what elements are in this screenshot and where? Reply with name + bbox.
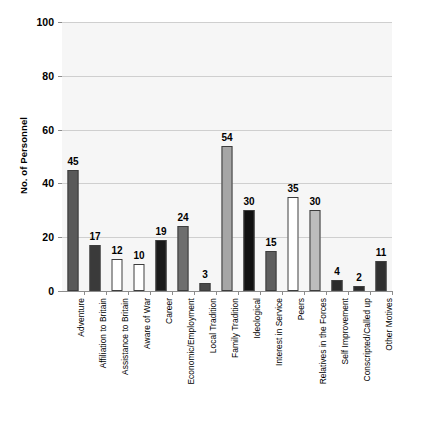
bar-chart: No. of Personnel 020406080100 4517121019…	[0, 0, 441, 426]
x-axis-tick	[282, 291, 283, 295]
x-axis-tick	[392, 291, 393, 295]
x-axis-tick	[150, 291, 151, 295]
x-axis-label: Career	[165, 298, 173, 324]
y-axis-label: 0	[0, 286, 54, 297]
bar-slot: 3	[194, 22, 216, 291]
x-axis-tick	[172, 291, 173, 295]
bar-value-label: 2	[356, 273, 362, 283]
bar-series: 451712101924354301535304211	[62, 22, 392, 291]
x-axis-label: Interest in Service	[275, 298, 283, 366]
bar[interactable]	[376, 261, 387, 291]
bar-slot: 2	[348, 22, 370, 291]
bar[interactable]	[178, 226, 189, 291]
x-axis-label: Affiliation to Britain	[99, 298, 107, 368]
bar-value-label: 10	[133, 251, 144, 261]
x-axis-tick	[348, 291, 349, 295]
bar-value-label: 24	[177, 213, 188, 223]
bar[interactable]	[200, 283, 211, 291]
bar[interactable]	[244, 210, 255, 291]
x-axis-label: Adventure	[77, 298, 85, 337]
x-axis-tick	[370, 291, 371, 295]
x-axis-tick	[260, 291, 261, 295]
y-axis-label: 100	[0, 17, 54, 28]
bar-value-label: 12	[111, 246, 122, 256]
x-axis-label: Self Improvement	[341, 298, 349, 364]
bar-slot: 11	[370, 22, 392, 291]
bar[interactable]	[156, 240, 167, 291]
y-axis-title: No. of Personnel	[18, 86, 29, 226]
x-axis-label: Ideological	[253, 298, 261, 339]
x-axis-tick	[216, 291, 217, 295]
bar-value-label: 17	[89, 232, 100, 242]
bar-slot: 15	[260, 22, 282, 291]
x-axis-line	[62, 291, 392, 292]
x-axis-tick	[326, 291, 327, 295]
bar[interactable]	[68, 170, 79, 291]
bar-slot: 30	[238, 22, 260, 291]
y-axis-label: 20	[0, 232, 54, 243]
x-axis-tick	[238, 291, 239, 295]
y-axis-label: 40	[0, 178, 54, 189]
bar-slot: 45	[62, 22, 84, 291]
bar-slot: 24	[172, 22, 194, 291]
y-axis-tick	[58, 291, 62, 292]
bar[interactable]	[354, 286, 365, 291]
bar-slot: 19	[150, 22, 172, 291]
bar-value-label: 4	[334, 267, 340, 277]
bar[interactable]	[310, 210, 321, 291]
x-axis-tick	[128, 291, 129, 295]
bar-value-label: 54	[221, 133, 232, 143]
y-axis-label: 80	[0, 71, 54, 82]
bar-value-label: 11	[376, 248, 387, 258]
y-axis-label: 60	[0, 125, 54, 136]
bar-value-label: 35	[287, 184, 298, 194]
bar-value-label: 30	[243, 197, 254, 207]
x-axis-label: Local Tradition	[209, 298, 217, 353]
bar-value-label: 3	[202, 270, 208, 280]
bar-slot: 54	[216, 22, 238, 291]
x-axis-tick	[194, 291, 195, 295]
x-axis-tick	[84, 291, 85, 295]
x-axis-label: Conscripted/Called up	[363, 298, 371, 381]
x-axis-tick	[106, 291, 107, 295]
bar-slot: 35	[282, 22, 304, 291]
x-axis-label: Peers	[297, 298, 305, 320]
bar[interactable]	[112, 259, 123, 291]
bar[interactable]	[266, 251, 277, 291]
bar[interactable]	[134, 264, 145, 291]
bar-value-label: 45	[67, 157, 78, 167]
x-axis-tick	[304, 291, 305, 295]
bar[interactable]	[332, 280, 343, 291]
bar[interactable]	[288, 197, 299, 291]
x-axis-label: Other Motives	[385, 298, 393, 351]
bar-slot: 17	[84, 22, 106, 291]
bar-slot: 12	[106, 22, 128, 291]
bar[interactable]	[222, 146, 233, 291]
x-axis-label: Assistance to Britain	[121, 298, 129, 375]
x-axis-label: Family Tradition	[231, 298, 239, 358]
bar-slot: 4	[326, 22, 348, 291]
bar-slot: 10	[128, 22, 150, 291]
bar-value-label: 30	[309, 197, 320, 207]
bar[interactable]	[90, 245, 101, 291]
x-axis-label: Economic/Employment	[187, 298, 195, 385]
x-axis-label: Aware of War	[143, 298, 151, 349]
bar-value-label: 15	[265, 238, 276, 248]
x-axis-label: Relatives in the Forces	[319, 298, 327, 384]
bar-slot: 30	[304, 22, 326, 291]
bar-value-label: 19	[155, 227, 166, 237]
